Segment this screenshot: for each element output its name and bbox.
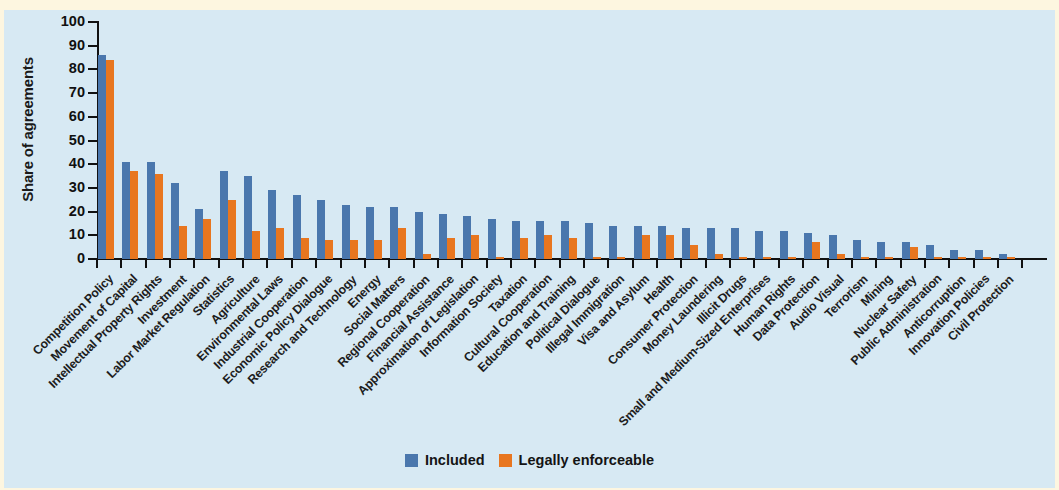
chart-legend: IncludedLegally enforceable — [0, 452, 1059, 468]
x-axis-tick — [291, 260, 293, 268]
bar-group — [585, 22, 601, 259]
bar-legally-enforceable — [666, 235, 674, 259]
y-axis-tick — [88, 92, 97, 94]
bar-included — [585, 223, 593, 259]
x-axis-tick — [583, 260, 585, 268]
chart-figure: Share of agreements IncludedLegally enfo… — [0, 0, 1059, 490]
bar-legally-enforceable — [837, 254, 845, 259]
bar-group — [439, 22, 455, 259]
x-axis-tick — [486, 260, 488, 268]
bar-included — [780, 231, 788, 259]
bar-included — [220, 171, 228, 259]
bar-legally-enforceable — [423, 254, 431, 259]
bar-included — [926, 245, 934, 259]
bar-group — [755, 22, 771, 259]
bar-group — [488, 22, 504, 259]
bar-group — [342, 22, 358, 259]
bar-included — [439, 214, 447, 259]
legend-swatch-icon — [405, 454, 418, 467]
bar-legally-enforceable — [544, 235, 552, 259]
bar-group — [634, 22, 650, 259]
x-axis-tick — [1021, 260, 1023, 268]
bar-legally-enforceable — [447, 238, 455, 259]
bar-included — [122, 162, 130, 259]
x-axis-tick — [169, 260, 171, 268]
x-axis-tick — [607, 260, 609, 268]
legend-item[interactable]: Included — [405, 452, 485, 468]
bar-group — [366, 22, 382, 259]
bar-legally-enforceable — [958, 257, 966, 259]
bar-legally-enforceable — [715, 254, 723, 259]
bar-group — [268, 22, 284, 259]
bar-legally-enforceable — [642, 235, 650, 259]
bar-included — [195, 209, 203, 259]
bar-group — [731, 22, 747, 259]
y-axis-tick — [88, 234, 97, 236]
bar-legally-enforceable — [520, 238, 528, 259]
bar-included — [950, 250, 958, 259]
bar-included — [877, 242, 885, 259]
bar-legally-enforceable — [179, 226, 187, 259]
bar-group — [293, 22, 309, 259]
bar-group — [98, 22, 114, 259]
bar-group — [415, 22, 431, 259]
x-axis-tick — [729, 260, 731, 268]
bar-included — [512, 221, 520, 259]
bar-legally-enforceable — [910, 247, 918, 259]
x-axis-tick — [218, 260, 220, 268]
x-axis-tick — [680, 260, 682, 268]
bar-legally-enforceable — [788, 257, 796, 259]
bar-included — [98, 55, 106, 259]
bar-legally-enforceable — [983, 257, 991, 259]
bar-legally-enforceable — [130, 171, 138, 259]
bar-included — [293, 195, 301, 259]
bar-legally-enforceable — [617, 257, 625, 259]
bar-legally-enforceable — [106, 60, 114, 259]
legend-label: Included — [425, 452, 485, 468]
y-axis-tick — [88, 187, 97, 189]
x-axis-tick — [461, 260, 463, 268]
bar-legally-enforceable — [861, 257, 869, 259]
bar-group — [804, 22, 820, 259]
bar-included — [609, 226, 617, 259]
x-axis-tick — [875, 260, 877, 268]
bar-group — [244, 22, 260, 259]
bar-group — [561, 22, 577, 259]
bar-group — [147, 22, 163, 259]
bar-group — [536, 22, 552, 259]
y-axis-tick — [88, 140, 97, 142]
legend-item[interactable]: Legally enforceable — [499, 452, 654, 468]
x-axis-tick — [753, 260, 755, 268]
x-axis-tick — [340, 260, 342, 268]
y-axis-tick-label: 80 — [40, 61, 85, 76]
plot-area — [98, 22, 1046, 259]
bar-group — [780, 22, 796, 259]
bar-included — [975, 250, 983, 259]
x-axis-tick — [559, 260, 561, 268]
bar-legally-enforceable — [812, 242, 820, 259]
bar-included — [171, 183, 179, 259]
bar-legally-enforceable — [593, 257, 601, 259]
bar-included — [731, 228, 739, 259]
bar-legally-enforceable — [203, 219, 211, 259]
x-axis-tick — [948, 260, 950, 268]
bar-legally-enforceable — [301, 238, 309, 259]
bar-legally-enforceable — [569, 238, 577, 259]
x-axis-tick — [900, 260, 902, 268]
y-axis-tick-label: 90 — [40, 38, 85, 53]
x-axis-tick — [388, 260, 390, 268]
bar-included — [755, 231, 763, 259]
bar-included — [682, 228, 690, 259]
x-axis-tick — [120, 260, 122, 268]
bar-included — [707, 228, 715, 259]
bar-included — [268, 190, 276, 259]
x-axis-tick — [413, 260, 415, 268]
bar-group — [950, 22, 966, 259]
x-axis-tick — [973, 260, 975, 268]
y-axis-tick-label: 30 — [40, 180, 85, 195]
bar-legally-enforceable — [496, 257, 504, 259]
bar-legally-enforceable — [276, 228, 284, 259]
bar-group — [853, 22, 869, 259]
y-axis-tick — [88, 45, 97, 47]
x-axis-tick — [802, 260, 804, 268]
